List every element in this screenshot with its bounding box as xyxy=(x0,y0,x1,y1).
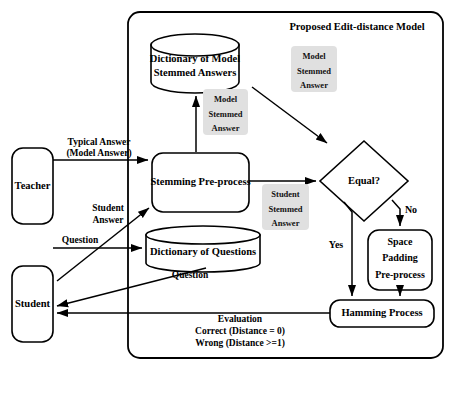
teacher-label: Teacher xyxy=(15,180,51,191)
edge-label-evaluation-2: Correct (Distance = 0) xyxy=(195,326,285,337)
dict-model-line2: Stemmed Answers xyxy=(154,67,237,78)
dict-model-line1: Dictionary of Model xyxy=(150,53,240,64)
edge-label-typical-answer-1: Typical Answer xyxy=(68,137,132,147)
edge-label-question-student: Question xyxy=(172,270,209,280)
chip-model-stemmed-right-line1: Model xyxy=(302,51,326,61)
chip-model-stemmed-right-line3: Answer xyxy=(300,80,328,90)
edge-label-question-teacher: Question xyxy=(62,235,99,245)
student-label: Student xyxy=(15,298,51,309)
chip-student-stemmed-line2: Stemmed xyxy=(269,204,303,214)
chip-model-stemmed-up-line2: Stemmed xyxy=(209,109,243,119)
chip-model-stemmed-answer-right: Model Stemmed Answer xyxy=(291,46,337,92)
edge-equal-yes-to-hamming xyxy=(344,202,352,296)
space-padding-line2: Padding xyxy=(382,252,418,263)
edge-label-yes: Yes xyxy=(329,239,344,250)
chip-student-stemmed-line1: Student xyxy=(271,189,300,199)
chip-model-stemmed-right-line2: Stemmed xyxy=(297,66,331,76)
chip-student-stemmed-answer: Student Stemmed Answer xyxy=(262,184,309,230)
edge-label-evaluation-1: Evaluation xyxy=(218,314,263,324)
flowchart-svg: Proposed Edit-distance Model Teacher Stu… xyxy=(0,0,453,393)
edge-label-evaluation-3: Wrong (Distance >=1) xyxy=(195,338,285,349)
chip-model-stemmed-up-line1: Model xyxy=(214,94,238,104)
edge-equal-no-to-space-padding xyxy=(392,200,400,226)
proposed-model-title: Proposed Edit-distance Model xyxy=(289,21,424,32)
flowchart-canvas: Proposed Edit-distance Model Teacher Stu… xyxy=(0,0,453,393)
space-padding-line1: Space xyxy=(388,236,414,247)
edge-label-typical-answer-2: (Model Answer) xyxy=(66,148,131,159)
dict-questions-label: Dictionary of Questions xyxy=(150,246,256,257)
equal-decision-label: Equal? xyxy=(348,175,380,186)
chip-model-stemmed-answer-up: Model Stemmed Answer xyxy=(203,89,248,135)
edge-dictionary-model-to-equal xyxy=(252,87,327,143)
chip-student-stemmed-line3: Answer xyxy=(272,218,300,228)
space-padding-line3: Pre-process xyxy=(375,269,425,280)
hamming-process-label: Hamming Process xyxy=(341,307,422,318)
chip-model-stemmed-up-line3: Answer xyxy=(212,123,240,133)
edge-label-student-answer-1: Student xyxy=(92,203,125,213)
edge-label-no: No xyxy=(405,204,417,215)
edge-label-student-answer-2: Answer xyxy=(92,215,124,225)
stemming-preprocess-label: Stemming Pre-process xyxy=(150,176,250,187)
